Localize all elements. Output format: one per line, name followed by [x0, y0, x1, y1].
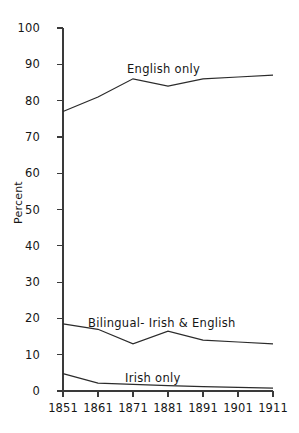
- series-label-irish-only: Irish only: [125, 371, 181, 385]
- chart-figure: Percent 0102030405060708090100 185118611…: [0, 0, 299, 433]
- series-line-0: [63, 75, 273, 111]
- series-label-bilingual: Bilingual- Irish & English: [88, 316, 236, 330]
- data-series: [63, 75, 273, 388]
- series-label-english-only: English only: [127, 62, 200, 76]
